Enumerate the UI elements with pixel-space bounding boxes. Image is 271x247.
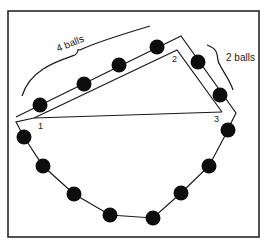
- ball: [33, 98, 48, 113]
- ball: [191, 55, 206, 70]
- ball: [77, 77, 92, 92]
- ball: [202, 159, 217, 174]
- vertex-1-label: 1: [38, 121, 43, 131]
- ball: [67, 187, 82, 202]
- ball-chain-diagram: 4 balls 2 balls 1 2 3: [0, 0, 271, 247]
- ball: [150, 40, 165, 55]
- ball: [36, 159, 51, 174]
- ball: [213, 88, 228, 103]
- balls: [17, 40, 236, 226]
- four-balls-label: 4 balls: [55, 33, 86, 54]
- two-balls-label: 2 balls: [226, 52, 255, 63]
- diagram-frame: [8, 11, 259, 237]
- vertex-3-label: 3: [214, 114, 219, 124]
- ball: [174, 186, 189, 201]
- ball: [103, 208, 118, 223]
- ball: [221, 123, 236, 138]
- vertex-2-label: 2: [172, 54, 177, 64]
- ball: [112, 58, 127, 73]
- triangle-base-line: [34, 112, 222, 118]
- ball: [17, 130, 32, 145]
- ball: [146, 211, 161, 226]
